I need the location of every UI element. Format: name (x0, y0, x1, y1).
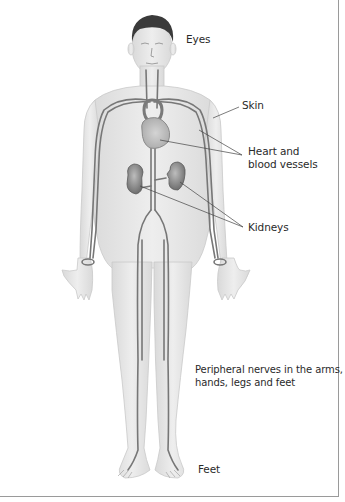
human-body-illustration (0, 0, 345, 502)
label-heart-line2: blood vessels (248, 158, 318, 171)
label-heart-line1: Heart and (248, 145, 299, 158)
label-nerves-line2: hands, legs and feet (195, 376, 295, 389)
label-skin: Skin (242, 99, 264, 112)
label-kidneys: Kidneys (248, 221, 289, 234)
label-eyes: Eyes (186, 33, 210, 46)
label-nerves-line1: Peripheral nerves in the arms, (195, 363, 343, 376)
label-feet: Feet (198, 463, 220, 476)
